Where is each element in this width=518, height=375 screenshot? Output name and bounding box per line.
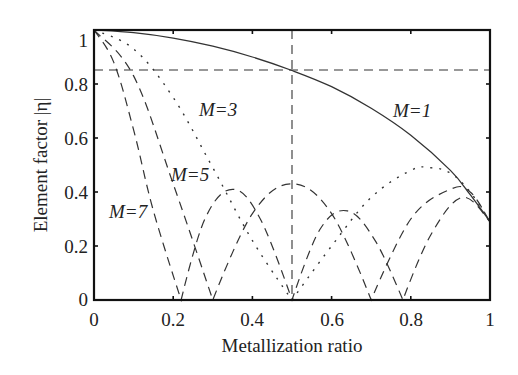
- x-axis-label: Metallization ratio: [222, 335, 363, 356]
- annotation-m3: M=3: [198, 99, 237, 120]
- y-tick-0.4: 0.4: [64, 182, 88, 203]
- y-tick-0.6: 0.6: [64, 128, 88, 149]
- y-tick-1: 1: [79, 30, 89, 51]
- annotation-m7: M=7: [108, 201, 149, 222]
- x-tick-1: 1: [485, 309, 495, 330]
- element-factor-chart: 0 0.2 0.4 0.6 0.8 1 0 0.2 0.4 0.6 0.8 1 …: [0, 0, 518, 375]
- y-axis-label: Element factor |η|: [30, 98, 51, 233]
- x-tick-0.6: 0.6: [320, 309, 344, 330]
- x-tick-0.8: 0.8: [399, 309, 423, 330]
- annotation-m5: M=5: [170, 164, 209, 185]
- annotation-m1: M=1: [392, 100, 431, 121]
- x-tick-0.4: 0.4: [240, 309, 264, 330]
- y-tick-0: 0: [79, 289, 89, 310]
- x-tick-0.2: 0.2: [161, 309, 185, 330]
- x-tick-0: 0: [89, 309, 99, 330]
- y-tick-0.2: 0.2: [64, 236, 88, 257]
- y-tick-0.8: 0.8: [64, 74, 88, 95]
